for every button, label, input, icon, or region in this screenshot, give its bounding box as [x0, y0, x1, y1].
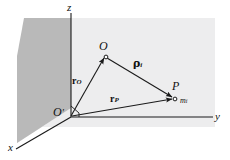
vector-r-p-label: rP	[110, 94, 119, 104]
coordinate-system-diagram	[0, 0, 230, 160]
figure-container: z y x O O′ P mi rO rP ρi	[0, 0, 230, 160]
point-o-marker	[104, 55, 108, 59]
x-axis-label: x	[8, 142, 13, 153]
origin-point-label: O′	[53, 106, 64, 118]
mass-label: mi	[180, 97, 187, 105]
point-o-label: O	[99, 40, 108, 52]
vector-rho-i-subscript: i	[140, 61, 142, 69]
z-axis-label: z	[67, 2, 71, 13]
vector-r-o-label: rO	[72, 76, 82, 86]
mass-subscript: i	[186, 98, 188, 104]
point-p-marker	[173, 97, 177, 101]
point-p-label: P	[172, 80, 179, 92]
vector-rho-i-label: ρi	[133, 58, 142, 69]
origin-prime-mark: ′	[62, 107, 64, 118]
y-axis-label: y	[215, 111, 220, 122]
vector-r-o-subscript: O	[76, 78, 81, 86]
origin-point-letter: O	[53, 105, 62, 119]
vector-r-p-subscript: P	[114, 96, 118, 104]
